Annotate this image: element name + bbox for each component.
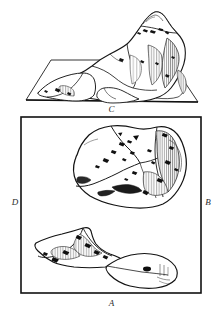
perspective-landmass — [38, 12, 186, 103]
figure-plate — [0, 0, 223, 322]
figure-label-b: B — [201, 198, 215, 207]
plan-panel — [21, 117, 201, 293]
main-landmass — [74, 126, 187, 208]
figure-label-d: D — [8, 198, 22, 207]
perspective-panel — [26, 12, 198, 103]
figure-label-a: A — [0, 299, 223, 308]
figure-label-c: C — [0, 105, 223, 114]
